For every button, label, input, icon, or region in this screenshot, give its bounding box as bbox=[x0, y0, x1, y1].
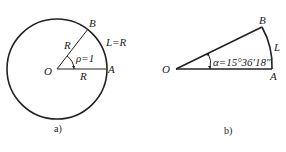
label-arc: L bbox=[273, 41, 280, 53]
figure-b: O A B α=15°36′18″ L b) bbox=[162, 14, 280, 137]
label-o: O bbox=[162, 63, 170, 75]
caption-b: b) bbox=[224, 125, 232, 137]
label-radius-lower: R bbox=[79, 70, 87, 82]
label-a: A bbox=[269, 70, 277, 82]
label-angle: α=15°36′18″ bbox=[213, 56, 271, 68]
label-angle: ρ=1 bbox=[75, 52, 94, 64]
diagram-canvas: O A B R R ρ=1 L=R a) O A B α=15°36′18″ L… bbox=[0, 0, 286, 152]
label-a: A bbox=[107, 63, 115, 75]
caption-a: a) bbox=[54, 123, 62, 135]
label-b: B bbox=[89, 17, 96, 29]
label-o: O bbox=[44, 65, 52, 77]
label-b: B bbox=[259, 14, 266, 26]
label-arc: L=R bbox=[105, 36, 127, 48]
figure-a: O A B R R ρ=1 L=R a) bbox=[7, 17, 127, 135]
label-radius-upper: R bbox=[63, 39, 71, 51]
